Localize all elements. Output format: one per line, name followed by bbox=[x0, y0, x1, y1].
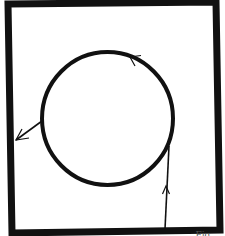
trajectory-diagram bbox=[0, 0, 225, 236]
circular-orbit bbox=[42, 52, 173, 185]
box-frame bbox=[8, 2, 220, 233]
exit-path-line bbox=[16, 121, 42, 140]
figure-caption: … Fig. … bbox=[0, 231, 225, 236]
